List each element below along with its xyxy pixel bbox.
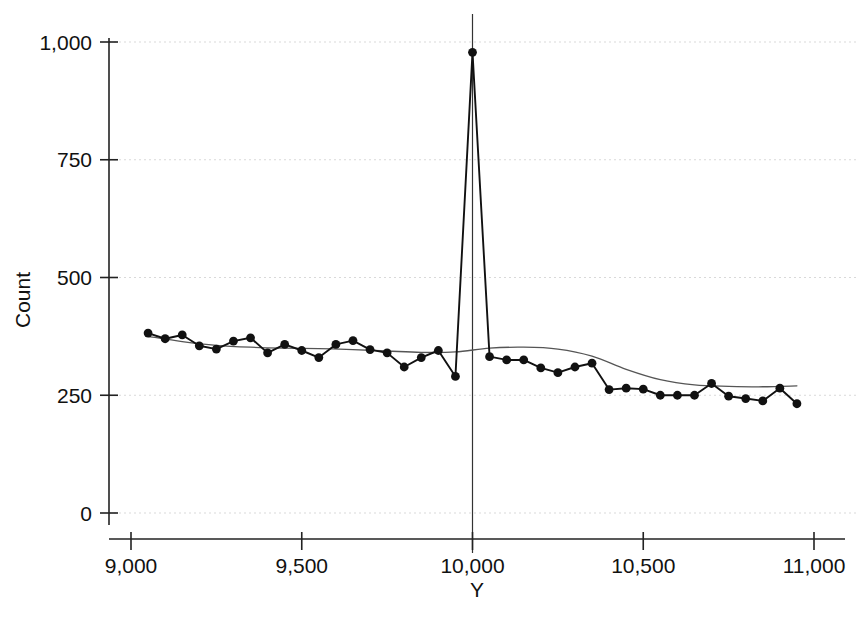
- data-point: [263, 348, 272, 357]
- data-point: [212, 345, 221, 354]
- data-point: [178, 331, 187, 340]
- count-vs-y-line-chart: 02505007501,000 9,0009,50010,00010,50011…: [0, 0, 861, 629]
- data-point: [741, 394, 750, 403]
- data-point: [246, 333, 255, 342]
- y-tick-label-250: 250: [57, 384, 92, 407]
- data-point: [332, 340, 341, 349]
- x-tick-label-9000: 9,000: [105, 554, 158, 577]
- data-point: [673, 391, 682, 400]
- data-point: [775, 384, 784, 393]
- data-point: [707, 379, 716, 388]
- x-tick-label-10500: 10,500: [611, 554, 675, 577]
- data-point: [280, 340, 289, 349]
- data-point: [229, 337, 238, 346]
- data-point: [434, 346, 443, 355]
- data-point: [366, 345, 375, 354]
- data-point: [622, 384, 631, 393]
- data-point: [656, 391, 665, 400]
- data-point: [536, 364, 545, 373]
- data-point: [195, 341, 204, 350]
- data-point: [793, 399, 802, 408]
- x-tick-label-11000: 11,000: [783, 554, 846, 577]
- y-tick-label-500: 500: [57, 266, 92, 289]
- x-tick-label-9500: 9,500: [275, 554, 328, 577]
- data-point: [349, 336, 358, 345]
- data-point: [588, 359, 597, 368]
- y-tick-label-750: 750: [57, 148, 92, 171]
- chart-background: [0, 0, 861, 629]
- data-point: [502, 356, 511, 365]
- data-point: [297, 346, 306, 355]
- y-axis-title: Count: [11, 272, 34, 328]
- data-point: [485, 352, 494, 361]
- data-point: [519, 356, 528, 365]
- y-tick-label-1000: 1,000: [39, 31, 92, 54]
- data-point: [605, 385, 614, 394]
- data-point: [314, 353, 323, 362]
- data-point: [383, 348, 392, 357]
- data-point: [451, 372, 460, 381]
- x-axis-title: Y: [470, 578, 484, 601]
- x-tick-label-10000: 10,000: [440, 554, 504, 577]
- y-tick-label-0: 0: [80, 502, 92, 525]
- data-point: [161, 334, 170, 343]
- data-point: [690, 391, 699, 400]
- data-point: [553, 368, 562, 377]
- data-point: [400, 363, 409, 372]
- data-point: [417, 353, 426, 362]
- chart-container: 02505007501,000 9,0009,50010,00010,50011…: [0, 0, 861, 629]
- data-point: [639, 385, 648, 394]
- data-point: [758, 397, 767, 406]
- data-point: [571, 363, 580, 372]
- data-point: [724, 392, 733, 401]
- data-point: [144, 329, 153, 338]
- data-point: [468, 48, 477, 57]
